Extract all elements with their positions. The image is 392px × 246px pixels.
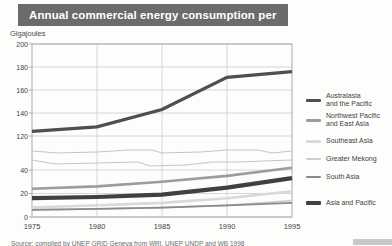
asia-and-pacific-line-swatch bbox=[306, 201, 321, 205]
x-tick-label: 1990 bbox=[212, 223, 242, 231]
legend-item-northwest-pacific-east-asia: Northwest Pacific and East Asia bbox=[306, 112, 380, 128]
y-tick-label: 20 bbox=[4, 190, 28, 197]
x-tick-label: 1985 bbox=[147, 223, 177, 231]
y-tick-label: 140 bbox=[4, 110, 28, 117]
legend-label: South Asia bbox=[326, 173, 359, 181]
y-tick-label: 120 bbox=[4, 133, 28, 140]
legend-label: Southeast Asia bbox=[326, 137, 373, 145]
legend-label-line: Australasia bbox=[326, 92, 372, 100]
legend-item-greater-mekong: Greater Mekong bbox=[306, 155, 377, 163]
legend-item-asia-and-pacific: Asia and Pacific bbox=[306, 199, 376, 207]
greater-mekong-line-swatch bbox=[306, 158, 321, 160]
y-axis-title: Gigajoules bbox=[10, 29, 45, 38]
legend-label: Asia and Pacific bbox=[326, 199, 376, 207]
northwest-pacific-line-swatch bbox=[306, 119, 321, 122]
chart-title-bar: Annual commercial energy consumption per… bbox=[18, 4, 288, 26]
y-tick-label: 200 bbox=[4, 41, 28, 48]
legend-item-southeast-asia: Southeast Asia bbox=[306, 137, 373, 145]
y-tick-label: 160 bbox=[4, 87, 28, 94]
legend-label-line: and the Pacific bbox=[326, 100, 372, 108]
adjacent-page-fragment bbox=[353, 239, 392, 245]
southeast-asia-line-swatch bbox=[306, 140, 321, 143]
x-tick-label: 1995 bbox=[277, 223, 307, 231]
source-note: Source: compiled by UNEP GRID Geneva fro… bbox=[11, 240, 244, 246]
legend-label-line: Northwest Pacific bbox=[326, 112, 380, 120]
y-tick-label: 0 bbox=[4, 214, 28, 221]
legend-label: Greater Mekong bbox=[326, 155, 377, 163]
legend-item-south-asia: South Asia bbox=[306, 173, 359, 181]
australasia-line-swatch bbox=[306, 99, 321, 102]
figure: Annual commercial energy consumption per… bbox=[0, 0, 392, 246]
legend-label: Australasia and the Pacific bbox=[326, 92, 372, 108]
south-asia-line-swatch bbox=[306, 176, 321, 178]
x-tick-label: 1980 bbox=[82, 223, 112, 231]
legend-item-australasia-pacific: Australasia and the Pacific bbox=[306, 92, 372, 108]
y-tick-label: 180 bbox=[4, 64, 28, 71]
legend-label: Northwest Pacific and East Asia bbox=[326, 112, 380, 128]
legend-label-line: and East Asia bbox=[326, 120, 380, 128]
x-tick-label: 1975 bbox=[17, 223, 47, 231]
y-tick-label: 40 bbox=[4, 167, 28, 174]
